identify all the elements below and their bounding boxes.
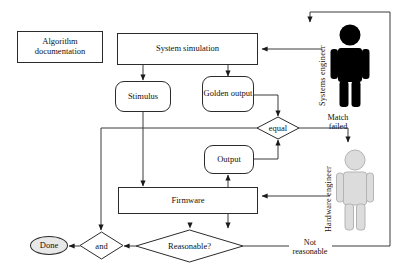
decision-reasonable[interactable]: Reasonable? — [135, 229, 244, 263]
decision-and-label: and — [95, 241, 107, 251]
node-output[interactable]: Output — [204, 145, 254, 174]
node-stimulus-label: Stimulus — [128, 92, 158, 102]
node-output-label: Output — [217, 155, 241, 165]
edge-output-to-equal — [253, 140, 278, 159]
actor-hardware-engineer — [334, 148, 380, 232]
actor-label-systems-engineer: Systems engineer — [318, 20, 327, 106]
node-firmware[interactable]: Firmware — [118, 187, 258, 214]
node-firmware-label: Firmware — [171, 196, 204, 206]
node-done-label: Done — [40, 241, 58, 251]
node-algorithm-documentation-label: Algorithm documentation — [18, 37, 102, 56]
decision-equal[interactable]: equal — [256, 116, 300, 140]
node-golden-output[interactable]: Golden output — [202, 76, 254, 112]
edge-golden-to-equal — [253, 95, 278, 116]
person-icon — [328, 22, 376, 108]
node-algorithm-documentation[interactable]: Algorithm documentation — [17, 31, 103, 63]
diagram-canvas: Algorithm documentation System simulatio… — [0, 0, 409, 276]
edge-stimulus-to-and — [101, 128, 143, 230]
decision-equal-label: equal — [269, 123, 287, 133]
node-system-simulation-label: System simulation — [156, 44, 219, 54]
node-done[interactable]: Done — [30, 236, 68, 255]
decision-reasonable-label: Reasonable? — [168, 241, 211, 251]
decision-and[interactable]: and — [79, 231, 124, 260]
node-golden-output-label: Golden output — [204, 89, 253, 99]
actor-systems-engineer — [328, 22, 376, 108]
actor-label-hardware-engineer: Hardware engineer — [324, 150, 333, 232]
edge-label-match-failed: Match failed — [318, 113, 358, 132]
edge-label-not-reasonable: Not reasonable — [286, 238, 334, 257]
node-stimulus[interactable]: Stimulus — [115, 81, 171, 112]
person-icon — [334, 148, 380, 232]
node-system-simulation[interactable]: System simulation — [117, 33, 258, 65]
